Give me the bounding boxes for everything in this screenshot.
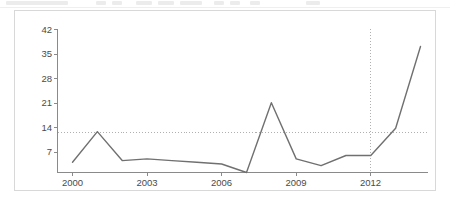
toolbar-chip [112,1,122,5]
toolbar-chip [214,1,224,5]
toolbar-chip [250,1,260,5]
toolbar-chip [136,1,152,5]
toolbar-chip [306,1,320,5]
chart-card [14,10,436,191]
toolbar-divider [0,7,450,8]
toolbar-chip [230,1,240,5]
toolbar-chip [180,1,202,5]
toolbar-chip [158,1,174,5]
clipped-toolbar-strip [0,0,450,9]
toolbar-chip [6,1,68,5]
toolbar-chip [96,1,106,5]
